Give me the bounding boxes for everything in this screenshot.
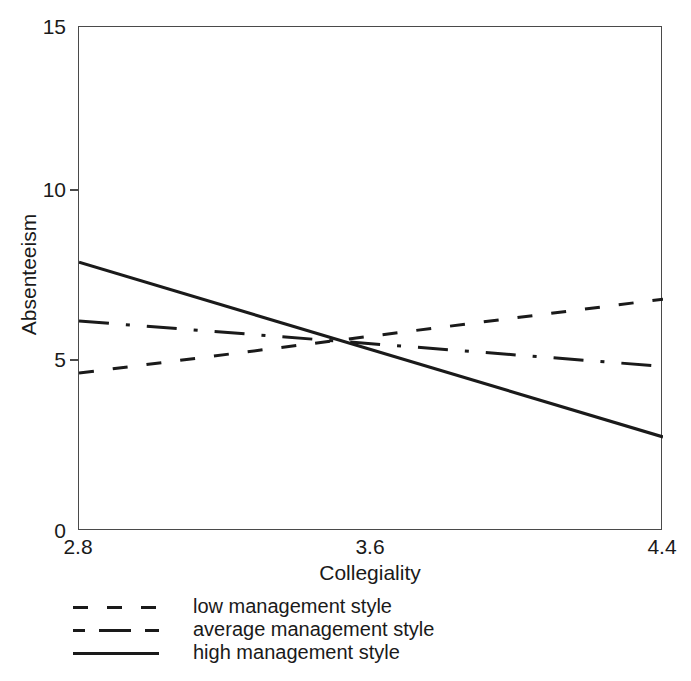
x-axis-title: Collegiality [78,562,662,583]
legend-item-low: low management style [60,596,580,619]
legend-item-average: average management style [60,619,580,642]
legend-item-high: high management style [60,642,580,665]
series-line-average [79,321,663,366]
plot-lines-svg [79,27,663,531]
chart-figure: 15 10 5 0 Absenteeism 2.8 3.6 4.4 Colleg… [0,0,691,681]
legend-label-high: high management style [193,642,400,662]
chart-legend: low management style average management … [60,596,580,665]
legend-swatch-solid [72,642,160,665]
legend-swatch-dash-dot [72,619,160,642]
series-line-high [79,262,663,437]
legend-swatch-dashed [72,596,160,619]
x-axis-tick-label-4-4: 4.4 [632,536,691,557]
y-axis-title: Absenteeism [18,185,39,365]
series-line-low [79,299,663,373]
y-axis-tick-label-15: 15 [0,16,66,37]
plot-area [78,26,662,530]
x-axis-tick-label-3-6: 3.6 [340,536,400,557]
x-axis-tick-label-2-8: 2.8 [48,536,108,557]
legend-label-average: average management style [193,619,434,639]
legend-label-low: low management style [193,596,392,616]
